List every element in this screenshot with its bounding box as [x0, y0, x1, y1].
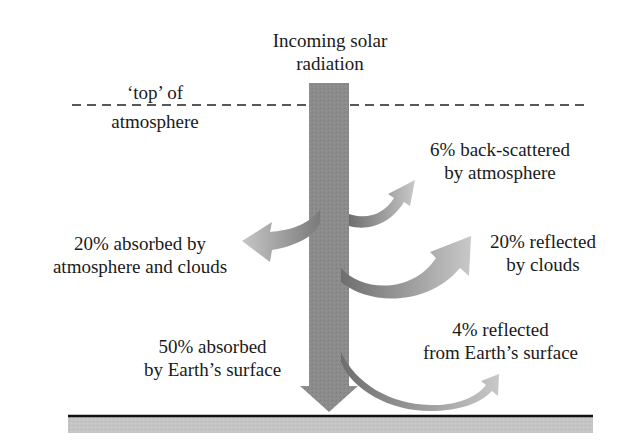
back-scattered-arrow — [349, 180, 415, 228]
top-of-atmosphere-label: ‘top’ of atmosphere — [85, 78, 225, 136]
back-scattered-label: 6% back-scattered by atmosphere — [405, 138, 595, 184]
reflected-by-clouds-label: 20% reflected by clouds — [468, 230, 618, 276]
solar-radiation-budget-diagram: Incoming solar radiation ‘top’ of atmosp… — [0, 0, 643, 448]
absorbed-by-atmosphere-label: 20% absorbed by atmosphere and clouds — [22, 232, 258, 278]
absorbed-by-surface-label: 50% absorbed by Earth’s surface — [115, 335, 310, 381]
reflected-by-clouds-arrow — [341, 236, 471, 299]
incoming-radiation-label: Incoming solar radiation — [240, 29, 420, 75]
reflected-from-surface-label: 4% reflected from Earth’s surface — [393, 318, 608, 364]
earth-surface — [68, 416, 593, 433]
